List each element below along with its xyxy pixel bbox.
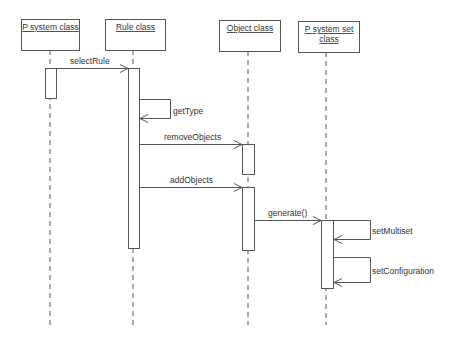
message-removeobjects: removeObjects	[139, 132, 242, 149]
activation-bar-p_system_set	[322, 221, 334, 289]
participant-title: Object class	[227, 23, 273, 33]
participant-object: Object class	[220, 21, 281, 52]
message-label: addObjects	[170, 175, 213, 185]
activation-bar-object	[243, 188, 255, 251]
message-label: setConfiguration	[372, 266, 434, 276]
message-label: removeObjects	[164, 132, 221, 142]
message-addobjects: addObjects	[139, 175, 242, 192]
participant-p_system: P system class	[22, 20, 80, 51]
sequence-diagram: P system classRule classObject classP sy…	[0, 0, 455, 350]
message-label: selectRule	[70, 56, 110, 66]
message-selectrule: selectRule	[56, 56, 128, 73]
self-message-line	[139, 100, 171, 119]
participant-title: class	[319, 34, 338, 44]
message-setconfiguration: setConfiguration	[333, 258, 434, 287]
participant-boxes: P system classRule classObject classP sy…	[22, 20, 360, 53]
self-message-line	[333, 258, 371, 283]
message-gettype: getType	[139, 100, 204, 123]
activation-bar-p_system	[46, 69, 57, 99]
message-label: getType	[173, 106, 204, 116]
activation-bar-rule	[129, 69, 140, 249]
message-label: setMultiset	[372, 226, 413, 236]
participant-title: Rule class	[116, 22, 155, 32]
message-label: generate()	[268, 208, 307, 218]
message-generate: generate()	[254, 208, 321, 225]
participant-rule: Rule class	[106, 20, 166, 51]
participant-title: P system class	[22, 22, 79, 32]
message-setmultiset: setMultiset	[333, 221, 413, 244]
participant-p_system_set: P system setclass	[299, 22, 360, 53]
activation-bar-object	[243, 145, 255, 175]
participant-title: P system set	[305, 24, 354, 34]
